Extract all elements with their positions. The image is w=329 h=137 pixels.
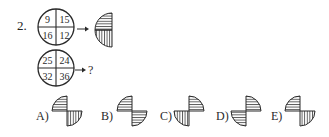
option-b-label[interactable]: B)	[101, 109, 113, 123]
example-value-bottom-right: 12	[60, 30, 70, 41]
option-c-label[interactable]: C)	[160, 109, 172, 123]
query-value-bottom-left: 32	[43, 71, 53, 82]
example-value-top-right: 15	[60, 14, 70, 25]
example-value-top-left: 9	[45, 14, 50, 25]
query-arrow-icon	[75, 68, 86, 73]
option-a-figure[interactable]	[52, 96, 82, 126]
query-value-top-right: 24	[60, 55, 70, 66]
example-value-bottom-left: 16	[43, 30, 53, 41]
example-number-circle: 9 15 16 12	[38, 9, 74, 45]
option-e-label[interactable]: E)	[271, 109, 282, 123]
example-result-half-circle	[95, 13, 112, 47]
query-value-top-left: 25	[43, 55, 53, 66]
option-d-label[interactable]: D)	[216, 109, 229, 123]
puzzle-figure: 9 15 16 12 25 24 32 36 ? A) B)	[0, 0, 329, 137]
option-e-figure[interactable]	[285, 96, 315, 126]
query-value-bottom-right: 36	[60, 71, 70, 82]
query-number-circle: 25 24 32 36	[38, 50, 74, 86]
option-d-figure[interactable]	[231, 96, 261, 126]
option-c-figure[interactable]	[174, 96, 204, 126]
option-b-figure[interactable]	[117, 96, 147, 126]
example-arrow-icon	[77, 27, 89, 32]
option-a-label[interactable]: A)	[36, 109, 49, 123]
unknown-marker: ?	[88, 63, 93, 77]
